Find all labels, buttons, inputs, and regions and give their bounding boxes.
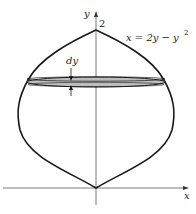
x-axis-label: x	[184, 190, 190, 201]
y-axis-arrow-icon	[94, 11, 98, 17]
curve-equation-label: x = 2y − y	[126, 32, 179, 43]
disk-slice	[27, 77, 165, 87]
solid-of-revolution-diagram: y 2 x = 2y − y 2 dy x	[0, 0, 196, 214]
y-axis	[94, 11, 98, 205]
y-tick-label: 2	[99, 18, 105, 29]
y-axis-label: y	[83, 8, 90, 19]
diagram-svg: y 2 x = 2y − y 2 dy x	[0, 0, 196, 214]
slice-thickness-label: dy	[66, 55, 78, 66]
curve-equation-exponent: 2	[184, 29, 188, 37]
